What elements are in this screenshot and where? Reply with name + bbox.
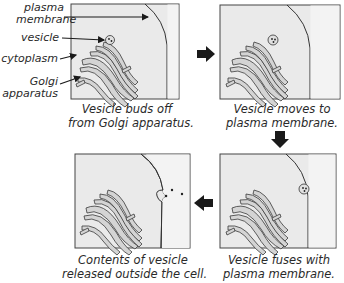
arrow-down-icon xyxy=(271,131,289,148)
panel-2 xyxy=(220,5,340,107)
vesicle xyxy=(106,36,115,45)
caption-line: from Golgi apparatus. xyxy=(68,116,186,130)
label-golgi-apparatus: Golgi apparatus xyxy=(0,76,58,100)
panel-3 xyxy=(220,154,336,255)
arrow-left-icon xyxy=(194,195,213,211)
caption-line: plasma membrane. xyxy=(218,267,340,281)
arrow-right-icon xyxy=(197,46,215,62)
caption-step-3: Vesicle fuses with plasma membrane. xyxy=(218,253,340,281)
panel-4 xyxy=(75,154,190,255)
caption-step-1: Vesicle buds off from Golgi apparatus. xyxy=(68,102,186,130)
caption-step-4: Contents of vesicle released outside the… xyxy=(62,253,204,281)
caption-line: Vesicle fuses with xyxy=(218,253,340,267)
caption-step-2: Vesicle moves to plasma membrane. xyxy=(222,102,342,130)
panel-1 xyxy=(60,4,179,107)
label-cytoplasm: cytoplasm xyxy=(0,53,58,65)
label-plasma-membrane: plasma membrane xyxy=(16,2,64,26)
vesicle xyxy=(299,184,309,194)
caption-line: plasma membrane. xyxy=(222,116,342,130)
label-line: apparatus xyxy=(0,88,58,100)
label-vesicle: vesicle xyxy=(4,32,59,44)
caption-line: Vesicle moves to xyxy=(222,102,342,116)
caption-line: Contents of vesicle xyxy=(62,253,204,267)
caption-line: released outside the cell. xyxy=(62,267,204,281)
label-line: membrane xyxy=(16,14,64,26)
vesicle xyxy=(268,35,278,45)
caption-line: Vesicle buds off xyxy=(68,102,186,116)
